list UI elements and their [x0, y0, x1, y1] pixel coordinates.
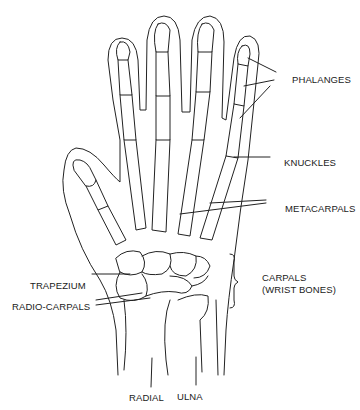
label-carpals: CARPALS [262, 272, 306, 283]
phalanges-leader-2 [244, 80, 274, 86]
middle-finger-bones [178, 23, 214, 236]
radial-leader [151, 358, 152, 387]
hand-anatomy-diagram: PHALANGES KNUCKLES METACARPALS CARPALS (… [0, 0, 360, 410]
ulna-bone [178, 295, 218, 375]
carpal-bones [116, 251, 210, 301]
label-wrist-bones: (WRIST BONES) [262, 284, 336, 295]
label-phalanges: PHALANGES [292, 74, 351, 85]
radio-carpals-leader-1 [96, 293, 142, 300]
radius-bone [124, 300, 170, 375]
thumb-bones [73, 160, 126, 245]
label-radio-carpals: RADIO-CARPALS [12, 301, 90, 312]
label-radial: RADIAL [129, 392, 164, 403]
little-finger-bones [116, 42, 146, 230]
ring-finger-bones [152, 23, 170, 232]
label-metacarpals: METACARPALS [285, 203, 355, 214]
hand-outline [63, 16, 259, 375]
label-knuckles: KNUCKLES [284, 157, 336, 168]
label-trapezium: TRAPEZIUM [30, 280, 86, 291]
label-ulna: ULNA [177, 391, 203, 402]
phalanges-leader-1 [248, 58, 276, 72]
metacarpals-leader-2 [210, 200, 266, 203]
